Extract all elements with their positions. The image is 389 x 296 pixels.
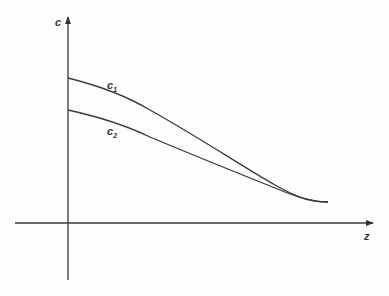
y-axis-label: c (55, 16, 61, 28)
curve-c1 (68, 78, 328, 202)
diagram-canvas: c z c1 c2 (0, 0, 389, 296)
diagram-svg: c z c1 c2 (0, 0, 389, 296)
curve-c2-label: c2 (107, 125, 117, 139)
curve-c1-label: c1 (107, 79, 117, 93)
x-axis-label: z (363, 230, 370, 242)
curve-c2 (68, 110, 328, 202)
